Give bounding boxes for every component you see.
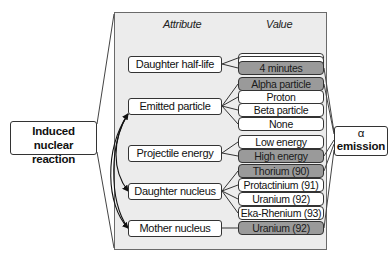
attribute-daughter-nucleus: Daughter nucleus (128, 183, 222, 200)
value-proton: Proton (238, 90, 324, 104)
value-low-energy: Low energy (238, 135, 324, 149)
attribute-projectile-energy: Projectile energy (128, 145, 222, 162)
value-none: None (238, 117, 324, 131)
attribute-header: Attribute (163, 18, 201, 30)
attribute-mother-nucleus: Mother nucleus (128, 220, 222, 237)
value-eka-rhenium-93: Eka-Rhenium (93) (238, 206, 324, 220)
value-header: Value (266, 18, 292, 30)
value-high-energy: High energy (238, 149, 324, 163)
value-uranium-92: Uranium (92) (238, 192, 324, 206)
emission-label: emission (335, 140, 387, 153)
value-beta-particle: Beta particle (238, 103, 324, 117)
induced-label-line2: reaction (11, 152, 96, 166)
induced-nuclear-reaction-box: Induced nuclear reaction (10, 121, 97, 155)
alpha-symbol: α (335, 127, 387, 140)
value-alpha-particle: Alpha particle (238, 77, 324, 91)
attribute-emitted-particle: Emitted particle (128, 98, 222, 115)
value-4-minutes: 4 minutes (238, 61, 324, 75)
alpha-emission-box: α emission (334, 126, 388, 156)
value-mother-uranium-92: Uranium (92) (238, 221, 324, 235)
induced-label-line1: Induced nuclear (11, 124, 96, 152)
value-protactinium-91: Protactinium (91) (238, 178, 324, 192)
attribute-daughter-half-life: Daughter half-life (128, 56, 222, 73)
value-thorium-90: Thorium (90) (238, 164, 324, 178)
